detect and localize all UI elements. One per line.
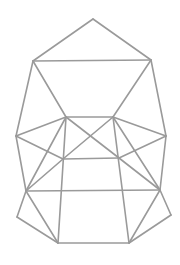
wireframe-diagram (0, 0, 180, 265)
edge-lower_left-far_left (17, 191, 26, 217)
edge-left_outer-lower_left (16, 136, 26, 191)
edge-upper_right-quad_top_right (113, 60, 151, 117)
edge-right_outer-quad_bottom_right (119, 136, 166, 158)
edge-quad_bottom_left-quad_bottom_right (63, 158, 119, 159)
edge-apex-upper_left (33, 19, 93, 61)
edge-far_right-bottom_right (129, 215, 171, 243)
edge-upper_left-quad_top_left (33, 61, 66, 117)
edge-upper_left-upper_right (33, 60, 151, 61)
edge-quad_top_left-left_outer (16, 117, 66, 136)
edge-upper_right-right_outer (151, 60, 166, 136)
edge-lower_right-far_right (160, 190, 171, 215)
edge-lower_right-bottom_right (129, 190, 160, 243)
edge-quad_top_right-right_outer (113, 117, 166, 136)
edge-quad_bottom_right-lower_right (119, 158, 160, 190)
polyhedron-wireframe (0, 0, 180, 265)
edge-quad_top_right-bottom_right (113, 117, 129, 243)
edge-far_left-bottom_left (17, 217, 58, 243)
edge-quad_top_left-quad_bottom_right (66, 117, 119, 158)
edge-apex-upper_right (93, 19, 151, 60)
edge-quad_top_right-quad_bottom_left (63, 117, 113, 159)
edge-quad_top_right-lower_right (113, 117, 160, 190)
edge-left_outer-quad_bottom_left (16, 136, 63, 159)
edge-lower_left-lower_right (26, 190, 160, 191)
edge-quad_bottom_left-lower_left (26, 159, 63, 191)
edge-upper_left-left_outer (16, 61, 33, 136)
edge-right_outer-lower_right (160, 136, 166, 190)
edge-lower_left-bottom_left (26, 191, 58, 243)
edge-quad_top_left-lower_left (26, 117, 66, 191)
edge-quad_top_left-bottom_left (58, 117, 66, 243)
